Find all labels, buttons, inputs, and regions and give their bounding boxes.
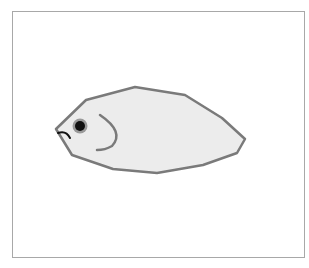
eye-icon <box>75 121 85 131</box>
fish-illustration <box>0 0 309 268</box>
